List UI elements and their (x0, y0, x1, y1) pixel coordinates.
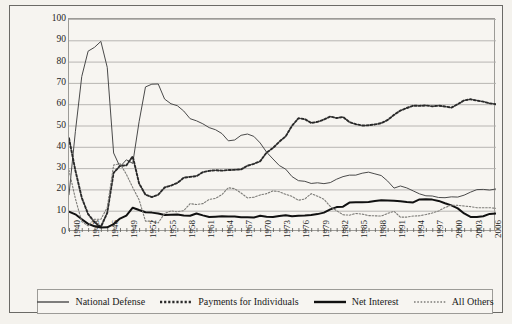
figure-frame: Percent 0102030405060708090100 194019431… (9, 5, 503, 313)
legend-swatch-0 (36, 297, 70, 307)
x-tick-label: 1952 (148, 220, 158, 238)
y-tick-label: 60 (26, 98, 66, 108)
x-tick-label: 1940 (72, 220, 82, 238)
y-tick-label: 80 (26, 56, 66, 66)
x-tick-label: 1997 (435, 220, 445, 238)
legend-label-1: Payments for Individuals (198, 296, 299, 307)
y-tick-label: 90 (26, 34, 66, 44)
legend-label-0: National Defense (75, 296, 145, 307)
x-tick-label: 1985 (359, 220, 369, 238)
x-tick-label: 1970 (263, 220, 273, 238)
y-tick-label: 30 (26, 162, 66, 172)
y-tick-label: 50 (26, 120, 66, 130)
x-tick-label: 2000 (454, 220, 464, 238)
legend-swatch-2 (313, 297, 347, 307)
y-tick-label: 20 (26, 183, 66, 193)
y-tick-label: 10 (26, 205, 66, 215)
plot-wrapper: Percent 0102030405060708090100 194019431… (68, 18, 495, 231)
y-axis-ticks: 0102030405060708090100 (68, 18, 495, 231)
legend-item-1: Payments for Individuals (159, 296, 299, 307)
legend-item-0: National Defense (36, 296, 145, 307)
x-tick-label: 1955 (168, 220, 178, 238)
x-tick-label: 1958 (187, 220, 197, 238)
x-tick-label: 1991 (397, 220, 407, 238)
x-tick-label: 2006 (493, 220, 503, 238)
x-tick-label: 1964 (225, 220, 235, 238)
x-tick-label: 1973 (282, 220, 292, 238)
chart-legend: National DefensePayments for Individuals… (37, 289, 493, 314)
x-tick-label: 1976 (301, 220, 311, 238)
legend-item-2: Net Interest (313, 296, 399, 307)
legend-swatch-3 (413, 297, 447, 307)
chart-page: Percent 0102030405060708090100 194019431… (0, 0, 512, 324)
x-tick-label: 1994 (416, 220, 426, 238)
legend-label-2: Net Interest (352, 296, 399, 307)
y-tick-label: 100 (26, 13, 66, 23)
x-tick-label: 1967 (244, 220, 254, 238)
x-axis-ticks: 1940194319461949195219551958196119641967… (68, 231, 495, 291)
x-tick-label: 2003 (474, 220, 484, 238)
x-tick-label: 1982 (340, 220, 350, 238)
x-tick-label: 1988 (378, 220, 388, 238)
legend-swatch-1 (159, 297, 193, 307)
x-tick-label: 1961 (206, 220, 216, 238)
legend-item-3: All Others (413, 296, 494, 307)
x-tick-label: 1946 (110, 220, 120, 238)
x-tick-label: 1979 (321, 220, 331, 238)
x-tick-label: 1943 (91, 220, 101, 238)
legend-label-3: All Others (452, 296, 494, 307)
y-tick-label: 70 (26, 77, 66, 87)
y-tick-label: 0 (26, 226, 66, 236)
y-tick-label: 40 (26, 141, 66, 151)
x-tick-label: 1949 (129, 220, 139, 238)
